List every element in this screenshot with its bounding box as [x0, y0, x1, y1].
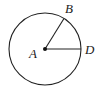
- radius-ab: [45, 19, 64, 50]
- label-b: B: [65, 1, 73, 16]
- center-point: [43, 47, 47, 51]
- circle-diagram: A B D: [0, 0, 100, 90]
- label-d: D: [84, 42, 95, 57]
- label-a: A: [28, 46, 37, 61]
